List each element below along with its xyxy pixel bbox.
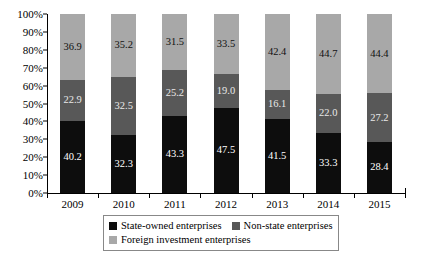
y-axis-tick-label: 0% (28, 188, 43, 199)
y-axis-tick-mark (43, 103, 47, 104)
legend-item[interactable]: Foreign investment enterprises (109, 233, 250, 247)
bar-segment-foreign-investment[interactable]: 44.4 (367, 14, 392, 93)
y-axis-tick-label: 40% (23, 116, 43, 127)
y-axis-tick-mark (43, 175, 47, 176)
bar-segment-foreign-investment[interactable]: 33.5 (214, 14, 239, 74)
bar-segment-non-state[interactable]: 22.9 (60, 80, 85, 121)
bar-segment-non-state[interactable]: 19.0 (214, 74, 239, 108)
bar-group: 43.325.231.5 (162, 14, 187, 193)
stacked-bar[interactable]: 33.322.044.7 (316, 14, 341, 193)
y-axis-tick-label: 50% (23, 98, 43, 109)
y-axis-tick-label: 80% (23, 44, 43, 55)
bar-segment-state-owned[interactable]: 41.5 (265, 119, 290, 193)
x-axis-tick-mark (149, 193, 150, 198)
bar-group: 40.222.936.9 (60, 14, 85, 193)
stacked-bar[interactable]: 32.332.535.2 (111, 14, 136, 193)
y-axis-tick-label: 100% (17, 9, 43, 20)
y-axis-tick-mark (43, 14, 47, 15)
y-axis-tick-mark (43, 49, 47, 50)
bar-segment-value-label: 42.4 (268, 47, 286, 58)
bar-segment-value-label: 43.3 (166, 149, 184, 160)
bar-segment-value-label: 28.4 (370, 162, 388, 173)
y-axis-tick-label: 60% (23, 80, 43, 91)
bar-segment-state-owned[interactable]: 28.4 (367, 142, 392, 193)
bar-segment-non-state[interactable]: 22.0 (316, 94, 341, 133)
x-axis-line (47, 193, 406, 194)
x-axis-tick-mark (405, 193, 406, 198)
stacked-bar[interactable]: 28.427.244.4 (367, 14, 392, 193)
x-axis-tick-mark (252, 193, 253, 198)
x-axis-tick-mark (303, 193, 304, 198)
bar-segment-value-label: 44.7 (319, 49, 337, 60)
legend-row-2: Foreign investment enterprises (109, 233, 333, 247)
x-axis-tick-mark (200, 193, 201, 198)
bar-segment-non-state[interactable]: 16.1 (265, 90, 290, 119)
y-axis-tick-label: 30% (23, 134, 43, 145)
bar-segment-state-owned[interactable]: 40.2 (60, 121, 85, 193)
y-axis-tick-label: 10% (23, 170, 43, 181)
bar-segment-state-owned[interactable]: 47.5 (214, 108, 239, 193)
x-axis-tick-label: 2014 (317, 199, 339, 210)
y-axis-tick-mark (43, 31, 47, 32)
x-axis-tick-label: 2011 (164, 199, 186, 210)
bar-segment-non-state[interactable]: 32.5 (111, 77, 136, 135)
bar-segment-state-owned[interactable]: 33.3 (316, 133, 341, 193)
bar-group: 47.519.033.5 (214, 14, 239, 193)
bar-group: 41.516.142.4 (265, 14, 290, 193)
y-axis-tick-label: 20% (23, 152, 43, 163)
bar-segment-value-label: 32.3 (115, 159, 133, 170)
stacked-bar[interactable]: 47.519.033.5 (214, 14, 239, 193)
bar-segment-foreign-investment[interactable]: 35.2 (111, 14, 136, 77)
x-axis-tick-mark (98, 193, 99, 198)
bar-segment-value-label: 40.2 (63, 152, 81, 163)
stacked-bar[interactable]: 41.516.142.4 (265, 14, 290, 193)
legend-swatch-icon (109, 236, 117, 244)
y-axis-tick-mark (43, 157, 47, 158)
y-axis-tick-label: 90% (23, 26, 43, 37)
bar-segment-value-label: 22.9 (63, 95, 81, 106)
x-axis-tick-label: 2015 (368, 199, 390, 210)
x-axis-tick-mark (47, 193, 48, 198)
bar-segment-value-label: 32.5 (115, 101, 133, 112)
legend-swatch-icon (232, 222, 240, 230)
legend-item[interactable]: State-owned enterprises (109, 219, 222, 233)
bar-segment-value-label: 27.2 (370, 113, 388, 124)
bar-segment-value-label: 16.1 (268, 99, 286, 110)
y-axis-tick-mark (43, 67, 47, 68)
y-axis-tick-mark (43, 85, 47, 86)
legend-item-label: State-owned enterprises (121, 219, 222, 233)
bar-segment-foreign-investment[interactable]: 42.4 (265, 14, 290, 90)
x-axis-tick-label: 2009 (62, 199, 84, 210)
y-axis-tick-mark (43, 121, 47, 122)
bar-segment-value-label: 25.2 (166, 88, 184, 99)
bar-segment-non-state[interactable]: 27.2 (367, 93, 392, 142)
bar-segment-foreign-investment[interactable]: 44.7 (316, 14, 341, 94)
bar-segment-value-label: 35.2 (115, 40, 133, 51)
chart-legend: State-owned enterprisesNon-state enterpr… (103, 215, 339, 251)
bar-segment-value-label: 36.9 (63, 42, 81, 53)
legend-item-label: Non-state enterprises (244, 219, 333, 233)
plot-area: 0%10%20%30%40%50%60%70%80%90%100%40.222.… (47, 14, 405, 193)
bar-segment-value-label: 19.0 (217, 86, 235, 97)
x-axis-tick-mark (354, 193, 355, 198)
legend-swatch-icon (109, 222, 117, 230)
bar-segment-foreign-investment[interactable]: 36.9 (60, 14, 85, 80)
bar-group: 32.332.535.2 (111, 14, 136, 193)
bar-segment-foreign-investment[interactable]: 31.5 (162, 14, 187, 70)
bar-group: 33.322.044.7 (316, 14, 341, 193)
bar-segment-value-label: 41.5 (268, 151, 286, 162)
stacked-bar[interactable]: 40.222.936.9 (60, 14, 85, 193)
bar-segment-non-state[interactable]: 25.2 (162, 70, 187, 115)
bar-segment-value-label: 22.0 (319, 108, 337, 119)
y-axis-tick-label: 70% (23, 62, 43, 73)
bar-segment-state-owned[interactable]: 43.3 (162, 116, 187, 194)
y-axis-tick-mark (43, 139, 47, 140)
bar-segment-value-label: 47.5 (217, 145, 235, 156)
x-axis-tick-label: 2012 (215, 199, 237, 210)
bar-segment-state-owned[interactable]: 32.3 (111, 135, 136, 193)
bar-segment-value-label: 31.5 (166, 37, 184, 48)
stacked-bar[interactable]: 43.325.231.5 (162, 14, 187, 193)
stacked-bar-chart: 0%10%20%30%40%50%60%70%80%90%100%40.222.… (0, 0, 422, 260)
legend-item-label: Foreign investment enterprises (121, 233, 250, 247)
legend-item[interactable]: Non-state enterprises (232, 219, 333, 233)
